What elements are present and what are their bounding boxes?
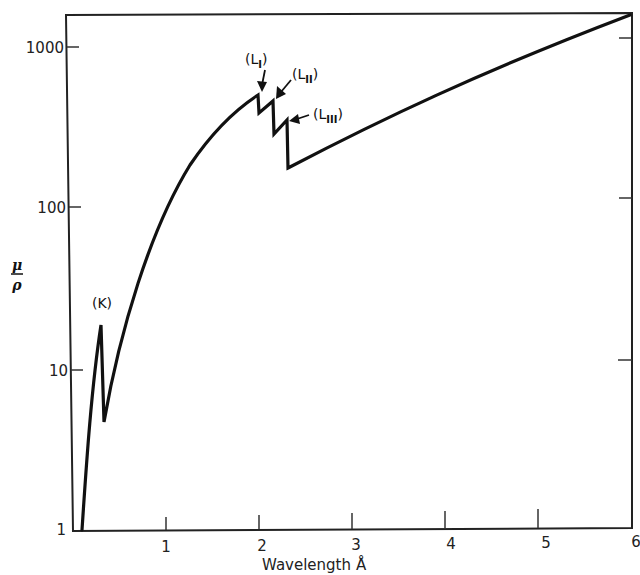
x-tick-label-2: 2 <box>257 537 267 555</box>
x-axis-label: Wavelength <box>262 556 351 574</box>
x-tick-label-5: 5 <box>541 534 551 552</box>
absorption-curve <box>82 15 630 530</box>
y-tick-label-100: 100 <box>37 199 66 217</box>
y-axis-label: μ ρ <box>11 257 23 293</box>
x-axis <box>166 509 538 530</box>
y-tick-label-1: 1 <box>56 521 66 539</box>
y-axis-right-ticks <box>618 38 632 360</box>
x-axis-unit: Å <box>356 555 367 574</box>
plot-frame <box>66 13 632 531</box>
annotation-k: (K) <box>92 295 112 311</box>
y-tick-label-1000: 1000 <box>26 39 64 57</box>
x-tick-label-4: 4 <box>446 535 456 553</box>
annotation-l3: (LIII) <box>289 106 343 125</box>
x-tick-label-6: 6 <box>631 533 640 551</box>
absorption-chart: 1000 100 10 1 1 2 3 4 5 6 Wavelength Å μ… <box>0 0 640 575</box>
x-tick-label-3: 3 <box>351 536 361 554</box>
y-label-rho: ρ <box>11 277 22 293</box>
svg-text:(LII): (LII) <box>292 66 318 85</box>
x-tick-label-1: 1 <box>161 538 171 556</box>
annotation-l2: (LII) <box>276 66 318 99</box>
annotation-l1: (LI) <box>245 51 267 92</box>
y-tick-label-10: 10 <box>49 362 68 380</box>
svg-text:(LIII): (LIII) <box>313 106 343 125</box>
svg-text:(LI): (LI) <box>245 51 267 70</box>
y-label-mu: μ <box>12 257 22 273</box>
